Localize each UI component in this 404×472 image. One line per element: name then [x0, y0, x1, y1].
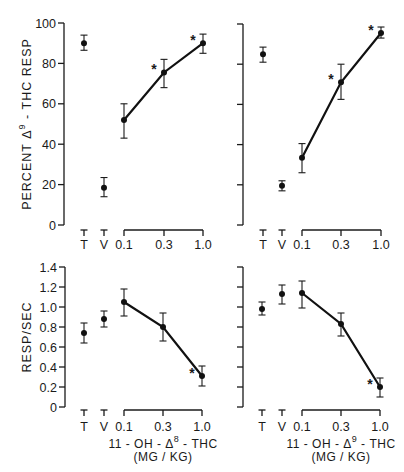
panel-top-left: 020406080100PERCENT Δ9 - THC RESPTV0.10.… — [17, 17, 212, 253]
control-point-v — [101, 185, 107, 191]
y-tick-label: 0.8 — [40, 321, 57, 335]
dose-point — [299, 290, 305, 296]
category-label-t: T — [259, 238, 267, 252]
dose-point — [338, 321, 344, 327]
significance-asterisk: * — [328, 71, 334, 87]
control-point-v — [279, 183, 285, 189]
y-tick-label: 80 — [42, 57, 56, 71]
significance-asterisk: * — [367, 376, 373, 392]
dose-point — [160, 324, 166, 330]
dose-tick-label: 1.0 — [193, 420, 210, 434]
y-tick-label: 0.4 — [40, 361, 57, 375]
dose-response-line — [302, 293, 380, 387]
dose-tick-label: 0.1 — [293, 238, 310, 252]
category-label-v: V — [100, 238, 109, 252]
control-point-v — [101, 316, 107, 322]
dose-tick-label: 0.3 — [332, 238, 349, 252]
dose-tick-label: 1.0 — [371, 420, 388, 434]
category-label-t: T — [258, 420, 266, 434]
y-tick-label: 20 — [42, 178, 56, 192]
control-point-v — [279, 291, 285, 297]
dose-point — [299, 155, 305, 161]
y-axis-label: RESP/SEC — [20, 301, 34, 372]
y-axis-label: PERCENT Δ9 - THC RESP — [17, 38, 34, 210]
x-axis-units: (MG / KG) — [311, 450, 370, 464]
category-label-t: T — [80, 420, 88, 434]
category-label-v: V — [100, 420, 109, 434]
dose-point — [338, 79, 344, 85]
chart-grid: 020406080100PERCENT Δ9 - THC RESPTV0.10.… — [0, 0, 404, 472]
figure: 020406080100PERCENT Δ9 - THC RESPTV0.10.… — [0, 0, 404, 472]
panel-bottom-left: 00.20.40.60.81.01.21.4RESP/SECTV0.10.31.… — [20, 261, 218, 465]
dose-tick-label: 0.3 — [154, 420, 171, 434]
y-tick-label: 0.6 — [40, 341, 57, 355]
control-point-t — [260, 51, 266, 57]
dose-point — [200, 40, 206, 46]
dose-point — [121, 299, 127, 305]
dose-point — [378, 30, 384, 36]
x-axis-label: 11 - OH - Δ8 - THC — [108, 434, 217, 451]
dose-tick-label: 0.1 — [115, 420, 132, 434]
x-axis-label: 11 - OH - Δ9 - THC — [286, 434, 395, 451]
y-tick-label: 60 — [42, 97, 56, 111]
category-label-v: V — [278, 420, 287, 434]
x-axis-units: (MG / KG) — [133, 450, 192, 464]
dose-tick-label: 1.0 — [194, 238, 211, 252]
dose-point — [199, 373, 205, 379]
control-point-t — [81, 330, 87, 336]
category-label-v: V — [278, 238, 287, 252]
dose-tick-label: 0.3 — [332, 420, 349, 434]
significance-asterisk: * — [189, 365, 195, 381]
significance-asterisk: * — [190, 32, 196, 48]
y-tick-label: 1.0 — [40, 301, 57, 315]
y-tick-label: 1.2 — [40, 281, 57, 295]
category-label-t: T — [80, 238, 88, 252]
dose-tick-label: 0.3 — [155, 238, 172, 252]
panel-top-right: TV0.10.31.0** — [237, 22, 390, 252]
y-tick-label: 40 — [42, 138, 56, 152]
control-point-t — [259, 306, 265, 312]
y-tick-label: 100 — [35, 17, 56, 31]
panel-bottom-right: TV0.10.31.0*11 - OH - Δ9 - THC(MG / KG) — [237, 267, 396, 464]
dose-tick-label: 0.1 — [115, 238, 132, 252]
dose-point — [161, 69, 167, 75]
y-tick-label: 0.2 — [40, 381, 57, 395]
y-tick-label: 0 — [50, 401, 57, 415]
dose-point — [377, 384, 383, 390]
control-point-t — [81, 40, 87, 46]
dose-tick-label: 1.0 — [372, 238, 389, 252]
significance-asterisk: * — [368, 22, 374, 38]
dose-point — [121, 117, 127, 123]
y-tick-label: 1.4 — [40, 261, 57, 275]
dose-tick-label: 0.1 — [293, 420, 310, 434]
y-tick-label: 0 — [49, 219, 56, 233]
significance-asterisk: * — [151, 61, 157, 77]
